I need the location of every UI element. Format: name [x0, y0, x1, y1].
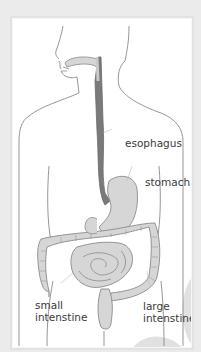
pharynx	[97, 57, 98, 81]
rectum	[98, 289, 112, 329]
large-intestine-label: large intenstine	[143, 300, 192, 324]
esophagus-label-text: esophagus	[125, 137, 182, 149]
diagram-panel: esophagus stomach small intenstine large…	[12, 18, 192, 348]
large-intestine-label-line2: intenstine	[143, 312, 192, 324]
duodenum	[85, 217, 97, 233]
small-intestine-label-line1: small	[35, 299, 87, 311]
small-intestine-label: small intenstine	[35, 299, 87, 323]
decorative-shape	[129, 337, 187, 348]
teeth	[61, 67, 69, 71]
stomach-label: stomach	[145, 176, 190, 188]
stomach-label-text: stomach	[145, 176, 190, 188]
esophagus-label: esophagus	[125, 137, 182, 149]
small-intestine-label-line2: intenstine	[35, 311, 87, 323]
oral-cavity	[65, 57, 100, 71]
large-intestine-label-line1: large	[143, 300, 192, 312]
